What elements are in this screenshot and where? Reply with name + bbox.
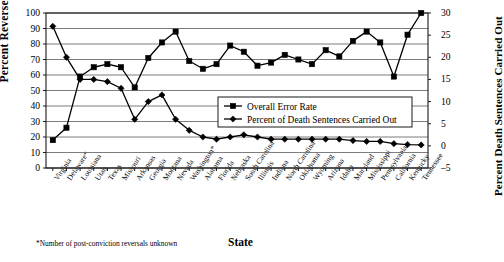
data-point-square xyxy=(91,65,96,70)
data-point-diamond xyxy=(364,138,370,144)
data-point-square xyxy=(64,125,69,130)
data-point-square xyxy=(132,85,137,90)
data-point-square xyxy=(187,58,192,63)
data-point-square xyxy=(214,62,219,67)
data-point-diamond xyxy=(377,138,383,144)
data-point-diamond xyxy=(404,141,410,147)
data-point-square xyxy=(255,63,260,68)
legend-label: Overall Error Rate xyxy=(247,102,317,112)
data-point-square xyxy=(378,40,383,45)
data-point-square xyxy=(419,10,424,15)
data-point-diamond xyxy=(104,79,110,85)
data-point-square xyxy=(228,43,233,48)
legend-label: Percent of Death Sentences Carried Out xyxy=(247,115,397,125)
data-point-square xyxy=(50,138,55,143)
data-point-square xyxy=(105,62,110,67)
data-point-square xyxy=(230,103,235,108)
data-point-diamond xyxy=(418,142,424,148)
data-point-square xyxy=(269,60,274,65)
data-point-square xyxy=(350,38,355,43)
data-point-square xyxy=(296,57,301,62)
data-point-diamond xyxy=(254,134,260,140)
data-point-square xyxy=(391,74,396,79)
data-point-square xyxy=(146,55,151,60)
data-point-diamond xyxy=(350,137,356,143)
data-point-square xyxy=(337,54,342,59)
data-point-square xyxy=(405,32,410,37)
data-point-diamond xyxy=(159,92,165,98)
data-point-square xyxy=(309,62,314,67)
data-point-square xyxy=(364,29,369,34)
data-point-square xyxy=(323,48,328,53)
data-point-square xyxy=(173,29,178,34)
data-point-square xyxy=(159,40,164,45)
data-point-square xyxy=(200,66,205,71)
data-point-diamond xyxy=(200,134,206,140)
data-point-square xyxy=(282,52,287,57)
data-point-diamond xyxy=(391,141,397,147)
data-point-diamond xyxy=(227,134,233,140)
data-point-square xyxy=(118,65,123,70)
data-point-square xyxy=(241,49,246,54)
data-point-diamond xyxy=(91,76,97,82)
